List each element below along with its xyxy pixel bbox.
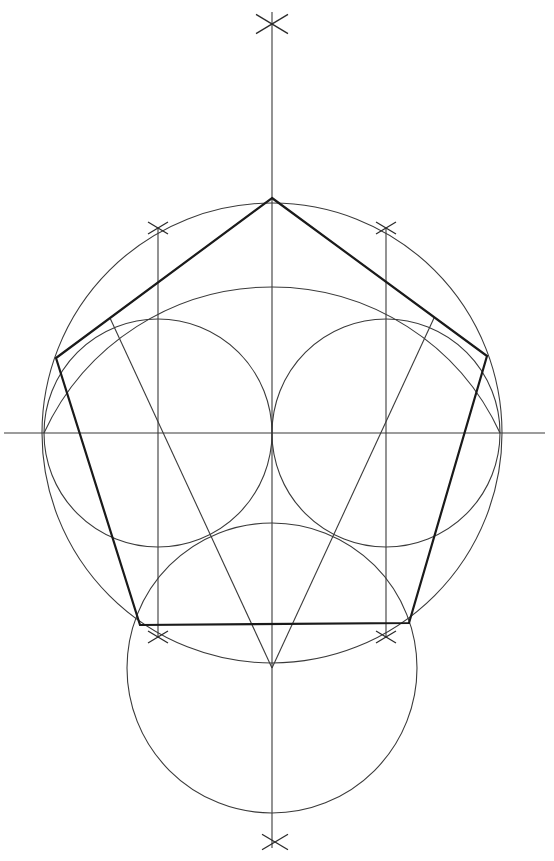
axes (4, 12, 545, 848)
bottom-cross (262, 834, 288, 850)
right-diagonal (272, 318, 434, 668)
left-diagonal (110, 318, 272, 668)
pentagon-construction-diagram (0, 0, 554, 861)
